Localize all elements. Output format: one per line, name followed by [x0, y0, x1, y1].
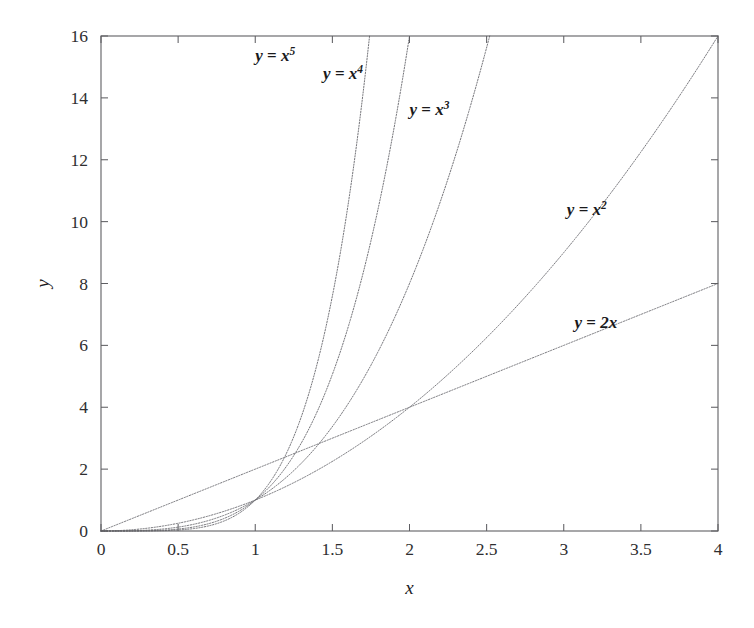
y-tick-label-4: 8 — [79, 274, 88, 294]
curve-labels-layer: y = 2xy = x2y = x3y = x4y = x5 — [253, 45, 618, 333]
curve-y-x-4 — [101, 36, 410, 531]
y-tick-label-7: 14 — [71, 88, 89, 108]
curve-label-text-3: y = x4 — [321, 63, 363, 83]
plot-svg: 00.511.522.533.54 0246810121416 y = 2xy … — [0, 0, 754, 628]
y-tick-label-1: 2 — [79, 459, 88, 479]
curve-label-4: y = x5 — [253, 45, 295, 65]
x-tick-label-5: 2.5 — [476, 539, 498, 559]
curve-label-0: y = 2x — [573, 313, 618, 332]
x-tick-label-2: 1 — [251, 539, 260, 559]
x-tick-label-4: 2 — [405, 539, 414, 559]
y-tick-label-6: 12 — [71, 150, 89, 170]
y-tick-label-3: 6 — [79, 335, 88, 355]
x-tick-label-0: 0 — [97, 539, 106, 559]
curve-label-2: y = x3 — [408, 99, 450, 119]
curve-label-3: y = x4 — [321, 63, 363, 83]
y-tick-label-0: 0 — [79, 521, 88, 541]
curve-y-x-5 — [101, 36, 370, 531]
y-tick-label-2: 4 — [79, 397, 88, 417]
curve-label-text-1: y = x2 — [565, 199, 607, 219]
curve-label-1: y = x2 — [565, 199, 607, 219]
chart-figure: 00.511.522.533.54 0246810121416 y = 2xy … — [0, 0, 754, 628]
y-tick-labels: 0246810121416 — [71, 26, 89, 541]
x-axis-title: x — [404, 577, 414, 598]
x-tick-labels: 00.511.522.533.54 — [97, 539, 723, 559]
curve-label-text-2: y = x3 — [408, 99, 450, 119]
x-tick-label-3: 1.5 — [321, 539, 343, 559]
curve-label-text-0: y = 2x — [573, 313, 618, 332]
axis-titles-layer: xy — [32, 279, 414, 598]
y-tick-label-8: 16 — [71, 26, 89, 46]
figure-page: 00.511.522.533.54 0246810121416 y = 2xy … — [0, 0, 754, 628]
y-tick-label-5: 10 — [71, 212, 89, 232]
x-tick-label-8: 4 — [714, 539, 723, 559]
x-tick-label-1: 0.5 — [167, 539, 189, 559]
x-tick-label-7: 3.5 — [630, 539, 652, 559]
x-tick-label-6: 3 — [559, 539, 568, 559]
y-axis-title: y — [32, 279, 53, 290]
curve-label-text-4: y = x5 — [253, 45, 295, 65]
